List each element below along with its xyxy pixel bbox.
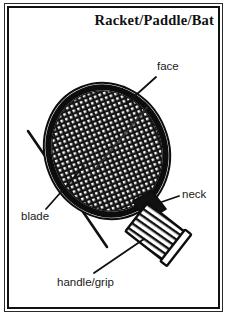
label-handle-grip: handle/grip (57, 276, 114, 288)
label-face: face (157, 60, 179, 72)
label-neck: neck (182, 188, 206, 200)
racket-illustration (0, 0, 228, 317)
figure-panel: Racket/Paddle/Bat (0, 0, 228, 317)
label-blade: blade (21, 210, 49, 222)
grip-leader-line (94, 239, 144, 273)
